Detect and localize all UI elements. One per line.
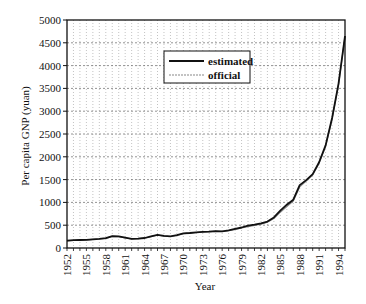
legend-label-official: official [208,69,240,81]
x-tick-label: 1955 [80,254,92,277]
x-tick-label: 1982 [255,254,267,276]
x-tick-label: 1991 [313,254,325,276]
y-tick-label: 3000 [39,105,62,117]
x-axis-title: Year [195,280,216,292]
y-tick-label: 1000 [39,196,62,208]
x-tick-label: 1985 [274,254,286,277]
x-tick-label: 1994 [333,254,345,277]
x-tick-label: 1958 [100,254,112,277]
y-tick-label: 2000 [39,151,62,163]
legend-label-estimated: estimated [208,55,253,67]
line-chart: 0500100015002000250030003500400045005000… [0,0,366,304]
x-tick-label: 1988 [294,254,306,277]
y-tick-label: 0 [56,242,62,254]
y-axis-ticks: 0500100015002000250030003500400045005000 [39,14,67,254]
y-tick-label: 4500 [39,37,62,49]
x-tick-label: 1979 [236,254,248,277]
y-tick-label: 1500 [39,174,62,186]
x-tick-label: 1976 [216,254,228,277]
y-axis-title: Per capita GNP (yuan) [19,86,32,186]
y-tick-label: 3500 [39,82,62,94]
x-tick-label: 1973 [197,254,209,277]
x-axis-ticks: 1952195519581961196419671970197319761979… [61,248,345,276]
y-tick-label: 5000 [39,14,62,26]
x-tick-label: 1952 [61,254,73,276]
x-tick-label: 1964 [139,254,151,277]
x-tick-label: 1961 [119,254,131,276]
y-tick-label: 2500 [39,128,62,140]
x-tick-label: 1967 [158,254,170,277]
legend: estimated official [164,51,253,83]
y-tick-label: 500 [45,219,62,231]
y-tick-label: 4000 [39,60,62,72]
x-tick-label: 1970 [177,254,189,277]
